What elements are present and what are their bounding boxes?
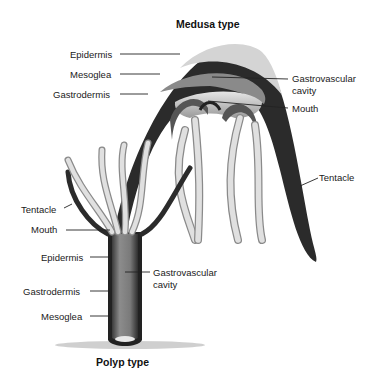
medusa-label-mouth: Mouth bbox=[292, 103, 318, 114]
medusa-title: Medusa type bbox=[176, 18, 240, 30]
medusa-label-gastrodermis: Gastrodermis bbox=[53, 89, 110, 100]
medusa-label-gastrovascular-cavity-line1: Gastrovascular bbox=[292, 73, 356, 84]
medusa-tentacles bbox=[179, 118, 262, 240]
medusa-label-epidermis: Epidermis bbox=[70, 49, 112, 60]
polyp-label-gastrodermis: Gastrodermis bbox=[23, 286, 80, 297]
polyp-label-mesoglea: Mesoglea bbox=[41, 311, 82, 322]
polyp-label-tentacle: Tentacle bbox=[21, 204, 56, 215]
medusa-label-gastrovascular-cavity-line2: cavity bbox=[292, 85, 316, 96]
polyp-label-mouth: Mouth bbox=[31, 224, 57, 235]
medusa-label-tentacle: Tentacle bbox=[319, 172, 354, 183]
polyp-label-gastrovascular-cavity-line2: cavity bbox=[153, 279, 177, 290]
medusa-label-mesoglea: Mesoglea bbox=[70, 69, 111, 80]
polyp-title: Polyp type bbox=[96, 356, 149, 368]
polyp-label-gastrovascular-cavity-line1: Gastrovascular bbox=[153, 267, 217, 278]
polyp-label-epidermis: Epidermis bbox=[41, 252, 83, 263]
